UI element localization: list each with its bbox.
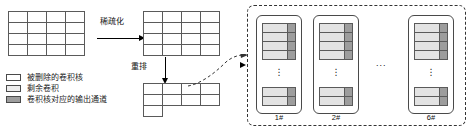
group-vertical-ellipsis: ⋮ xyxy=(257,69,301,75)
legend-swatch-output-channel-icon xyxy=(6,96,21,103)
legend-label-remaining: 剩余卷积 xyxy=(27,84,59,93)
original-kernel-matrix xyxy=(8,11,85,56)
matrix-cell xyxy=(181,94,201,106)
kernel-row-output-channel xyxy=(287,50,296,60)
legend-item-output-channel: 卷积核对应的输出通道 xyxy=(6,94,107,105)
kernel-row-output-channel xyxy=(439,50,448,60)
matrix-cell xyxy=(143,44,163,56)
to-groups-dashed-arrow xyxy=(186,54,250,92)
matrix-cell xyxy=(162,94,182,106)
matrix-cell xyxy=(27,44,47,56)
matrix-cell xyxy=(65,44,85,56)
kernel-row-output-channel xyxy=(439,96,448,106)
kernel-group-2: ⋮ xyxy=(313,15,359,114)
grouped-kernels-container: ⋮ 1# ⋮ 2# ... ⋮ 6# xyxy=(247,5,466,126)
kernel-group-6-label: 6# xyxy=(408,114,454,122)
matrix-cell xyxy=(143,105,163,117)
kernel-row-remaining xyxy=(414,96,440,106)
group-vertical-ellipsis: ⋮ xyxy=(314,69,358,75)
kernel-group-6: ⋮ xyxy=(408,15,454,114)
sparsify-arrow-line xyxy=(97,38,139,39)
rearrange-arrow-line xyxy=(165,57,166,79)
kernel-row-remaining xyxy=(262,50,288,60)
matrix-cell xyxy=(46,44,66,56)
legend-item-deleted-kernel: 被删除的卷积核 xyxy=(6,72,107,83)
matrix-cell xyxy=(8,44,28,56)
kernel-group-1-label: 1# xyxy=(256,114,302,122)
legend: 被删除的卷积核 剩余卷积 卷积核对应的输出通道 xyxy=(6,72,107,105)
kernel-row-remaining xyxy=(414,50,440,60)
groups-ellipsis: ... xyxy=(376,58,387,68)
kernel-row-output-channel xyxy=(344,96,353,106)
legend-swatch-remaining-icon xyxy=(6,85,21,92)
figure-canvas: 稀疏化 重排 被删除的卷积核 剩余卷积 卷积核对应的输出通道 ⋮ 1# xyxy=(0,0,472,131)
legend-swatch-deleted-icon xyxy=(6,74,21,81)
group-box-entry-arrow xyxy=(240,62,246,68)
kernel-group-1: ⋮ xyxy=(256,15,302,114)
kernel-group-2-label: 2# xyxy=(313,114,359,122)
kernel-row-output-channel xyxy=(344,50,353,60)
sparsified-kernel-matrix xyxy=(143,11,220,56)
matrix-cell xyxy=(162,44,182,56)
group-vertical-ellipsis: ⋮ xyxy=(409,69,453,75)
kernel-row-remaining xyxy=(319,50,345,60)
legend-label-deleted: 被删除的卷积核 xyxy=(27,73,83,82)
legend-label-output-channel: 卷积核对应的输出通道 xyxy=(27,95,107,104)
kernel-row-remaining xyxy=(319,96,345,106)
kernel-row-remaining xyxy=(262,96,288,106)
matrix-cell xyxy=(200,94,220,106)
kernel-row-output-channel xyxy=(287,96,296,106)
legend-item-remaining-kernel: 剩余卷积 xyxy=(6,83,107,94)
rearrange-arrow-label: 重排 xyxy=(131,62,147,71)
sparsify-arrow-label: 稀疏化 xyxy=(100,17,124,26)
